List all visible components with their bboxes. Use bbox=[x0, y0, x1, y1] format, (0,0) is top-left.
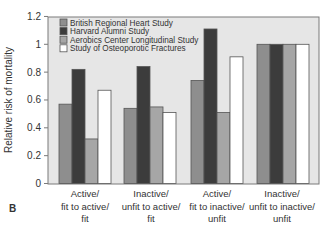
bar bbox=[204, 29, 217, 184]
x-tick-label: unfit bbox=[208, 213, 226, 224]
bar bbox=[217, 113, 230, 184]
bar bbox=[283, 44, 296, 183]
x-tick-label: fit to active/ bbox=[61, 201, 109, 212]
y-tick-label: 1 bbox=[35, 39, 41, 50]
x-tick-label: Inactive/ bbox=[133, 188, 169, 199]
panel-label: B bbox=[9, 203, 16, 214]
y-tick-label: 0.6 bbox=[27, 94, 41, 105]
y-tick-label: 0 bbox=[35, 178, 41, 189]
x-tick-label: fit bbox=[81, 213, 89, 224]
bar-chart: 00.20.40.60.811.2 Relative risk of morta… bbox=[0, 0, 331, 229]
bar bbox=[98, 90, 111, 183]
legend-swatch bbox=[60, 36, 67, 43]
bar bbox=[270, 44, 283, 183]
y-tick-label: 1.2 bbox=[27, 11, 41, 22]
legend-swatch bbox=[60, 19, 67, 26]
bar bbox=[150, 107, 163, 184]
bar bbox=[137, 67, 150, 184]
bar bbox=[59, 104, 72, 183]
bar bbox=[124, 108, 137, 183]
x-tick-label: unfit bbox=[273, 213, 291, 224]
y-axis: 00.20.40.60.811.2 bbox=[27, 11, 48, 189]
bar bbox=[230, 57, 243, 184]
x-tick-label: Active/ bbox=[71, 188, 100, 199]
bar bbox=[191, 80, 204, 183]
legend-swatch bbox=[60, 28, 67, 35]
x-tick-label: unfit to active/ bbox=[122, 201, 181, 212]
bar bbox=[85, 139, 98, 184]
x-tick-label: unfit to inactive/ bbox=[249, 201, 315, 212]
bar bbox=[163, 113, 176, 184]
bar bbox=[296, 44, 309, 183]
x-axis-labels: Active/fit to active/fitInactive/unfit t… bbox=[61, 188, 315, 224]
x-tick-label: Inactive/ bbox=[264, 188, 300, 199]
x-tick-label: fit to inactive/ bbox=[189, 201, 245, 212]
x-tick-label: Active/ bbox=[203, 188, 232, 199]
y-tick-label: 0.8 bbox=[27, 67, 41, 78]
bar bbox=[257, 44, 270, 183]
bar bbox=[72, 69, 85, 183]
y-tick-label: 0.2 bbox=[27, 150, 41, 161]
x-tick-label: fit bbox=[147, 213, 155, 224]
legend-label: Study of Osteoporotic Fractures bbox=[70, 44, 186, 53]
legend-swatch bbox=[60, 45, 67, 52]
y-tick-label: 0.4 bbox=[27, 122, 41, 133]
y-axis-label: Relative risk of mortality bbox=[3, 47, 14, 153]
